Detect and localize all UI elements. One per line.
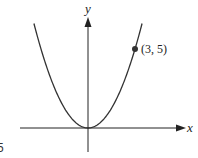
corner-number-fragment: 5 xyxy=(0,141,4,155)
point-label: (3, 5) xyxy=(141,42,167,57)
point-marker xyxy=(132,46,138,52)
x-axis-arrow-icon xyxy=(176,125,186,132)
parabola-graph xyxy=(0,0,198,158)
y-axis-arrow-icon xyxy=(85,17,92,27)
y-axis-label: y xyxy=(85,1,91,17)
x-axis-label: x xyxy=(187,120,193,136)
